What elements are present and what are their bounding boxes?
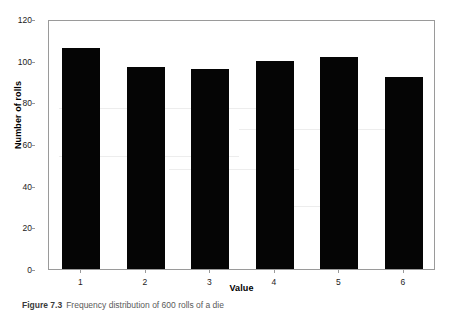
y-tick-mark (32, 62, 35, 63)
caption-label: Figure 7.3 (22, 300, 62, 310)
bar (191, 69, 229, 269)
x-tick-mark (403, 270, 404, 273)
bar (62, 48, 100, 269)
x-axis-title: Value (48, 283, 435, 293)
figure-caption: Figure 7.3Frequency distribution of 600 … (22, 300, 442, 310)
x-tick-mark (209, 270, 210, 273)
y-tick-mark (32, 103, 35, 104)
plot-area (48, 20, 435, 270)
figure-container: 020406080100120 Number of rolls 123456 V… (0, 0, 449, 311)
y-tick-label: 120 (18, 15, 32, 25)
y-axis-title: Number of rolls (13, 65, 23, 165)
bar (127, 67, 165, 269)
x-tick-mark (274, 270, 275, 273)
y-tick-mark (32, 145, 35, 146)
bar (256, 61, 294, 269)
y-tick-mark (32, 187, 35, 188)
y-tick-label: 20 (23, 223, 32, 233)
plot-inner (49, 21, 434, 269)
x-tick-mark (80, 270, 81, 273)
y-tick-mark (32, 270, 35, 271)
y-tick-mark (32, 20, 35, 21)
x-tick-mark (338, 270, 339, 273)
y-tick-label: 80 (23, 98, 32, 108)
caption-text: Frequency distribution of 600 rolls of a… (66, 300, 224, 310)
bar (320, 57, 358, 270)
x-tick-mark (145, 270, 146, 273)
y-tick-label: 40 (23, 182, 32, 192)
y-tick-mark (32, 228, 35, 229)
y-axis: 020406080100120 (0, 0, 48, 311)
bar (385, 77, 423, 269)
y-tick-label: 60 (23, 140, 32, 150)
